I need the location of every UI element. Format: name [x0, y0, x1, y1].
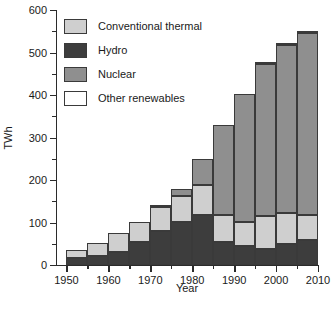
legend-item: Nuclear	[64, 62, 202, 86]
x-tick-minor	[87, 265, 88, 269]
bar-2000	[276, 43, 297, 265]
legend-item: Hydro	[64, 38, 202, 62]
bar-segment-nuclear	[255, 64, 276, 216]
bar-segment-conventional-thermal	[129, 222, 150, 243]
legend-item: Conventional thermal	[64, 14, 202, 38]
bar-segment-nuclear	[171, 189, 192, 196]
bar-segment-conventional-thermal	[108, 233, 129, 252]
x-tick-minor	[297, 265, 298, 269]
x-tick-major	[192, 265, 193, 272]
y-tick-label: 500	[29, 47, 47, 58]
chart-legend: Conventional thermalHydroNuclearOther re…	[64, 14, 202, 110]
bar-segment-nuclear	[192, 159, 213, 185]
x-tick-major	[276, 265, 277, 272]
bar-segment-conventional-thermal	[276, 213, 297, 244]
legend-swatch-icon	[64, 91, 87, 106]
bar-segment-hydro	[297, 240, 318, 266]
bar-segment-conventional-thermal	[297, 215, 318, 239]
bar-segment-hydro	[255, 249, 276, 265]
bar-segment-nuclear	[213, 125, 234, 215]
x-tick-minor	[213, 265, 214, 269]
x-tick-minor	[255, 265, 256, 269]
y-tick-label: 400	[29, 90, 47, 101]
bar-segment-nuclear	[297, 33, 318, 215]
y-tick-label: 100	[29, 217, 47, 228]
x-tick-major	[150, 265, 151, 272]
y-tick-label: 0	[41, 260, 47, 271]
bar-1980	[192, 159, 213, 265]
x-tick-major	[66, 265, 67, 272]
bar-segment-hydro	[129, 242, 150, 265]
bar-segment-hydro	[213, 242, 234, 265]
bar-segment-conventional-thermal	[66, 250, 87, 258]
bar-segment-hydro	[87, 256, 108, 265]
x-axis-title: Year	[56, 282, 318, 294]
stacked-bar-chart: 0100200300400500600 19501960197019801990…	[0, 0, 331, 313]
x-tick-minor	[129, 265, 130, 269]
legend-label: Nuclear	[98, 69, 136, 80]
y-tick-label: 300	[29, 132, 47, 143]
bar-segment-hydro	[66, 258, 87, 265]
x-tick-minor	[171, 265, 172, 269]
bar-1975	[171, 189, 192, 265]
bar-segment-conventional-thermal	[192, 185, 213, 215]
legend-label: Other renewables	[98, 93, 185, 104]
bar-segment-nuclear	[234, 94, 255, 222]
y-axis-title: TWh	[2, 126, 14, 149]
bar-segment-nuclear	[276, 45, 297, 213]
x-tick-major	[108, 265, 109, 272]
bar-segment-hydro	[171, 222, 192, 265]
bar-1955	[87, 243, 108, 265]
legend-label: Hydro	[98, 45, 127, 56]
bar-segment-hydro	[108, 252, 129, 265]
legend-swatch-icon	[64, 19, 87, 34]
bar-segment-conventional-thermal	[213, 215, 234, 243]
bar-1985	[213, 125, 234, 265]
bar-2005	[297, 31, 318, 265]
legend-item: Other renewables	[64, 86, 202, 110]
bar-segment-hydro	[150, 231, 171, 265]
bar-1990	[234, 94, 255, 265]
bar-segment-hydro	[234, 246, 255, 265]
legend-swatch-icon	[64, 67, 87, 82]
bar-1960	[108, 233, 129, 265]
bar-segment-conventional-thermal	[171, 196, 192, 222]
bar-1995	[255, 62, 276, 265]
legend-swatch-icon	[64, 43, 87, 58]
bar-segment-hydro	[192, 215, 213, 265]
x-axis-line	[56, 265, 318, 266]
legend-label: Conventional thermal	[98, 21, 202, 32]
y-tick-label: 600	[29, 5, 47, 16]
x-tick-major	[234, 265, 235, 272]
x-tick-major	[318, 265, 319, 272]
bar-segment-conventional-thermal	[255, 216, 276, 249]
bar-1970	[150, 205, 171, 265]
bar-segment-conventional-thermal	[234, 222, 255, 246]
bar-1950	[66, 250, 87, 265]
bar-segment-conventional-thermal	[87, 243, 108, 256]
y-tick-major	[50, 265, 56, 266]
y-tick-label: 200	[29, 175, 47, 186]
bar-1965	[129, 222, 150, 265]
bar-segment-conventional-thermal	[150, 207, 171, 232]
bar-segment-hydro	[276, 244, 297, 265]
